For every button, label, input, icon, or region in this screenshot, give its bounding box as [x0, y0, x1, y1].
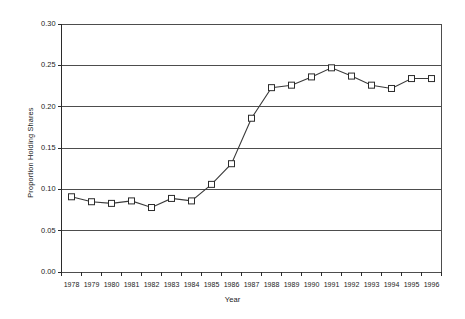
- data-point-marker: [209, 181, 215, 187]
- data-point-marker: [189, 198, 195, 204]
- data-point-marker: [89, 199, 95, 205]
- data-point-marker: [429, 76, 435, 82]
- data-point-marker: [149, 205, 155, 211]
- data-point-marker: [349, 73, 355, 79]
- y-axis-tick-label: 0.00: [20, 267, 56, 276]
- data-point-marker: [69, 194, 75, 200]
- series-line: [72, 68, 432, 208]
- data-point-marker: [329, 65, 335, 71]
- y-axis-tick-label: 0.15: [20, 143, 56, 152]
- data-point-marker: [309, 74, 315, 80]
- data-point-marker: [389, 85, 395, 91]
- y-axis-tick-label: 0.10: [20, 184, 56, 193]
- line-chart: Proportion Holding Shares Year 0.000.050…: [0, 0, 465, 319]
- data-point-marker: [169, 195, 175, 201]
- y-axis-title: Proportion Holding Shares: [26, 63, 35, 243]
- data-point-marker: [369, 82, 375, 88]
- data-point-marker: [289, 82, 295, 88]
- chart-plot-area: [0, 0, 465, 319]
- y-axis-tick-label: 0.30: [20, 19, 56, 28]
- data-point-marker: [269, 85, 275, 91]
- y-axis-tick-label: 0.05: [20, 226, 56, 235]
- y-axis-tick-label: 0.20: [20, 102, 56, 111]
- data-point-marker: [249, 115, 255, 121]
- data-point-marker: [109, 200, 115, 206]
- data-point-marker: [409, 76, 415, 82]
- x-axis-tick-label: 1996: [420, 281, 444, 288]
- data-point-marker: [129, 198, 135, 204]
- x-axis-title: Year: [0, 295, 465, 304]
- y-axis-tick-label: 0.25: [20, 60, 56, 69]
- data-point-marker: [229, 161, 235, 167]
